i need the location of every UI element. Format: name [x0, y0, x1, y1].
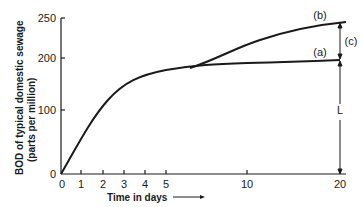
label-b: (b) [313, 9, 326, 21]
y-axis-label-units: (parts per million) [26, 78, 37, 162]
x-tick-4: 4 [142, 178, 148, 190]
x-axis-arrow-icon [173, 195, 205, 199]
x-tick-2: 2 [100, 178, 106, 190]
dimension-L [338, 61, 342, 174]
dimension-c [338, 23, 342, 59]
curve-a [61, 60, 340, 174]
x-tick-20: 20 [334, 178, 346, 190]
axes [61, 18, 346, 174]
x-tick-0: 0 [59, 178, 65, 190]
y-axis-label: BOD of typical domestic sewage [14, 20, 25, 175]
x-tick-1: 1 [78, 178, 84, 190]
y-tick-250: 250 [38, 12, 56, 24]
x-tick-3: 3 [121, 178, 127, 190]
label-L: L [337, 104, 343, 116]
x-tick-10: 10 [241, 178, 253, 190]
label-c: (c) [345, 35, 358, 47]
y-tick-0: 0 [50, 168, 56, 180]
x-tick-5: 5 [163, 178, 169, 190]
y-tick-200: 200 [38, 52, 56, 64]
x-axis-label: Time in days [107, 192, 168, 203]
y-tick-100: 100 [38, 104, 56, 116]
bod-chart: 250 200 100 0 0 1 2 3 4 5 10 20 Time in … [0, 0, 363, 207]
label-a: (a) [313, 46, 326, 58]
